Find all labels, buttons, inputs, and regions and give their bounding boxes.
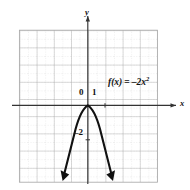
tick-label-x-one: 1 [92,88,97,97]
equation-coefficient: –2x [132,77,146,87]
axis-label-x: x [180,99,184,108]
graph-figure: 0 1 –2 y x f(x)=–2x2 [0,0,190,190]
tick-label-origin: 0 [79,88,84,97]
equation-function: f(x) [108,77,122,87]
equation-exponent: 2 [146,75,149,82]
equation-equals: = [124,77,129,87]
tick-label-y-negative-two: –2 [74,128,83,137]
axis-label-y: y [85,8,89,17]
equation-label: f(x)=–2x2 [108,76,149,88]
